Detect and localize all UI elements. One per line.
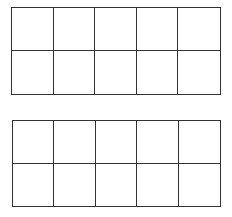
ten-frame-cell — [137, 121, 178, 164]
ten-frame-cell — [54, 121, 95, 164]
ten-frame-cell — [95, 8, 137, 51]
ten-frame-cell — [179, 121, 220, 164]
ten-frame-cell — [178, 8, 220, 51]
ten-frame-cell — [13, 121, 54, 164]
ten-frame-bottom — [12, 120, 221, 207]
ten-frame-cell — [96, 121, 137, 164]
ten-frame-cell — [95, 51, 137, 94]
ten-frame-cell — [54, 164, 95, 207]
ten-frame-cell — [54, 8, 96, 51]
ten-frame-cell — [12, 51, 54, 94]
ten-frame-cell — [137, 8, 179, 51]
ten-frame-cell — [137, 51, 179, 94]
ten-frame-cell — [12, 8, 54, 51]
ten-frame-cell — [137, 164, 178, 207]
ten-frame-cell — [178, 51, 220, 94]
ten-frame-cell — [179, 164, 220, 207]
ten-frame-cell — [13, 164, 54, 207]
ten-frame-cell — [54, 51, 96, 94]
ten-frame-top — [11, 7, 221, 95]
ten-frame-cell — [96, 164, 137, 207]
